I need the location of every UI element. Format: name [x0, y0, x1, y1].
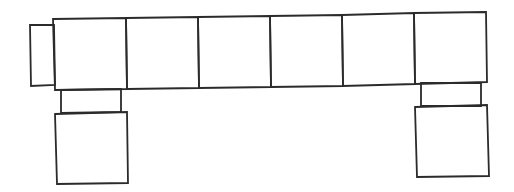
left-tab [30, 25, 55, 86]
bar-cell-2 [126, 17, 199, 89]
rectangle-diagram [0, 0, 514, 192]
bar-cell-1 [53, 18, 127, 90]
left-foot [55, 112, 128, 184]
bar-cell-3 [198, 16, 271, 88]
diagram-canvas [0, 0, 514, 192]
bar-cell-6 [414, 12, 487, 84]
right-foot [415, 105, 489, 177]
bar-cell-5 [342, 13, 415, 86]
right-connector [421, 83, 481, 106]
bar-cell-4 [270, 15, 343, 87]
left-connector [61, 89, 121, 113]
